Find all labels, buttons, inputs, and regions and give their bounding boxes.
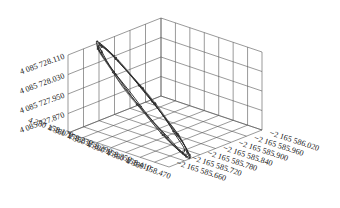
trajectory-point — [115, 73, 117, 75]
trajectory-point — [184, 154, 186, 156]
trajectory-point — [101, 50, 103, 52]
tick-labels: 4 085 727.8704 085 727.9504 085 728.0304… — [18, 52, 320, 183]
trajectory-point — [178, 135, 180, 137]
trajectory-point — [100, 44, 102, 46]
trajectory-series — [96, 41, 190, 159]
trajectory-point — [153, 103, 155, 105]
right-wall-gridline — [161, 77, 262, 111]
trajectory-point — [189, 154, 191, 156]
trajectory-point — [97, 41, 99, 43]
right-wall-gridline — [161, 57, 262, 91]
floor-gridline — [115, 115, 216, 149]
floor-gridline — [161, 96, 262, 130]
trajectory-point — [97, 47, 99, 49]
trajectory-point — [184, 149, 186, 151]
trajectory-point — [140, 106, 142, 108]
right-wall-gridline — [161, 38, 262, 72]
right-wall-gridline — [161, 18, 262, 52]
chart-3d: 4 085 727.8704 085 727.9504 085 728.0304… — [0, 0, 340, 208]
trajectory-loop — [97, 43, 188, 155]
floor-gridline — [126, 115, 219, 152]
trajectory-point — [141, 87, 143, 89]
trajectory-point — [137, 104, 139, 106]
trajectory-point — [115, 58, 117, 60]
trajectory-point — [167, 137, 169, 139]
